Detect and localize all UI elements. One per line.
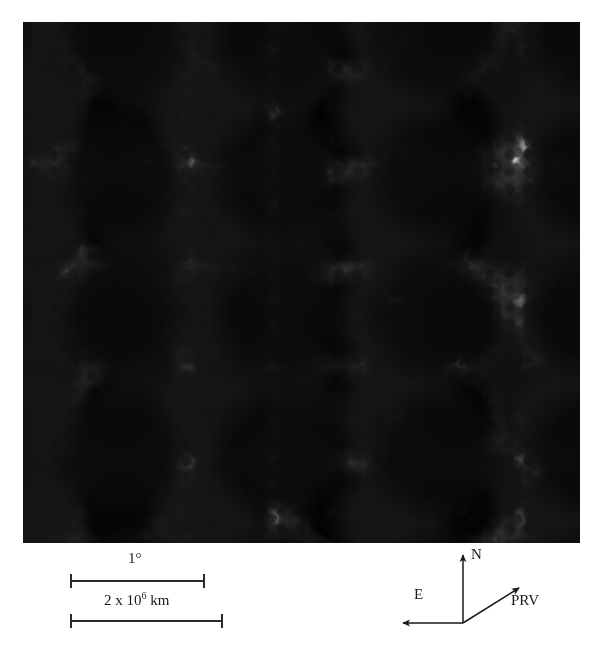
scale-bar-linear-cap-right [221,614,223,628]
scale-label-angular: 1° [128,550,142,567]
scale-label-linear-prefix: 2 x 10 [104,592,142,608]
comet-photographic-plate [23,22,580,543]
scale-bar-angular-cap-right [203,574,205,588]
scale-label-linear: 2 x 106 km [104,590,169,609]
scale-bar-linear-cap-left [70,614,72,628]
scale-bar-angular-cap-left [70,574,72,588]
emulsion-grain [23,22,580,543]
compass-label-prv: PRV [511,592,539,609]
scale-label-linear-exponent: 6 [142,590,147,601]
compass-label-east: E [414,586,423,603]
scale-bar-linear [70,620,222,622]
compass-label-north: N [471,546,482,563]
scale-bar-angular [70,580,204,582]
scale-label-linear-suffix: km [150,592,169,608]
